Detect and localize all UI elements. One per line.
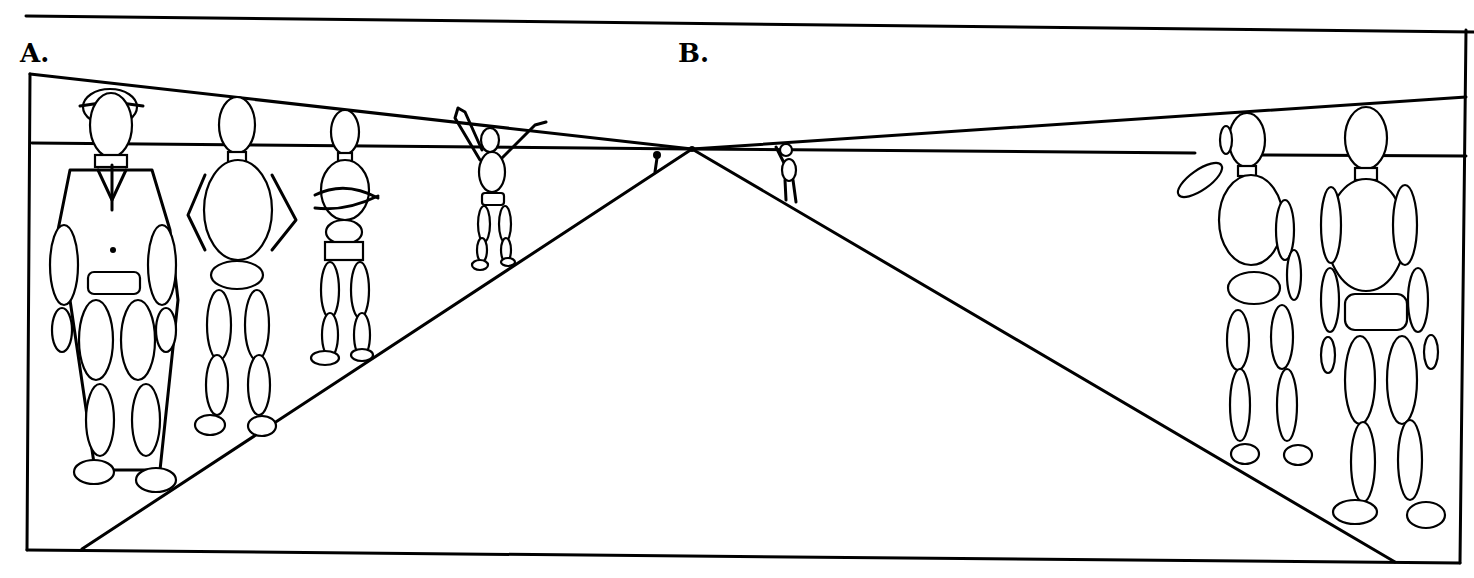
label-a: A.: [19, 38, 49, 68]
top-rule: [26, 16, 1474, 32]
perspective-diagram: A. B.: [0, 0, 1474, 578]
label-b: B.: [678, 38, 709, 68]
figure-suited-man: [50, 89, 178, 492]
figure-standing: [1321, 107, 1445, 528]
figure-saluting: [1173, 113, 1312, 465]
figure-hands-on-hips: [188, 97, 296, 436]
vanishing-point: [689, 146, 695, 152]
figure-small-saluting: [776, 144, 796, 202]
figure-arms-crossed: [311, 110, 378, 365]
